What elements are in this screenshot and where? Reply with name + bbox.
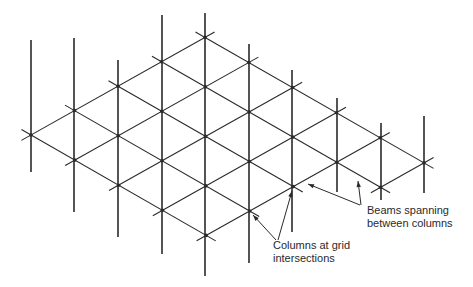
grid-intersection-node [247, 61, 251, 65]
grid-intersection-node [379, 186, 383, 190]
grid-intersection-node [73, 158, 77, 162]
columns-annotation-line-1: Columns at grid [273, 239, 350, 252]
grid-intersection-node [248, 160, 252, 164]
grid-intersection-node [160, 110, 164, 114]
beams-annotation-line-2: between columns [367, 217, 453, 230]
grid-intersection-node [160, 60, 164, 64]
grid-intersection-node [204, 184, 208, 188]
arrowhead-icon [308, 184, 314, 188]
columns-annotation-line-2: intersections [273, 252, 350, 265]
grid-intersection-node [204, 85, 208, 89]
grid-intersection-node [422, 161, 426, 165]
grid-intersection-node [335, 111, 339, 115]
grid-intersection-node [248, 209, 252, 213]
grid-intersection-node [73, 109, 77, 113]
grid-intersection-node [160, 159, 164, 163]
columns-annotation: Columns at grid intersections [273, 239, 350, 265]
beams-annotation: Beams spanning between columns [367, 204, 453, 230]
beam-line [152, 56, 390, 192]
grid-intersection-node [335, 160, 339, 164]
columns-layer [31, 13, 424, 276]
structural-grid-diagram: Beams spanning between columns Columns a… [0, 0, 473, 287]
arrowhead-icon [357, 181, 361, 187]
grid-drawing [0, 0, 473, 287]
grid-intersection-node [291, 185, 295, 189]
arrowhead-icon [288, 191, 292, 197]
grid-intersection-node [203, 36, 207, 40]
grid-intersection-node [204, 135, 208, 139]
grid-intersection-node [291, 135, 295, 139]
grid-intersection-node [161, 209, 165, 213]
grid-intersection-node [378, 136, 382, 140]
grid-intersection-node [291, 86, 295, 90]
grid-intersection-node [247, 110, 251, 114]
arrows-layer [253, 181, 361, 240]
grid-intersection-node [117, 134, 121, 138]
beams-annotation-line-1: Beams spanning [367, 204, 453, 217]
annotation-leader-line [278, 191, 292, 240]
grid-intersection-node [204, 234, 208, 238]
grid-intersection-node [29, 133, 33, 137]
annotation-leader-line [308, 184, 360, 205]
grid-intersection-node [116, 84, 120, 88]
beam-line [195, 32, 433, 168]
grid-intersection-node [117, 183, 121, 187]
